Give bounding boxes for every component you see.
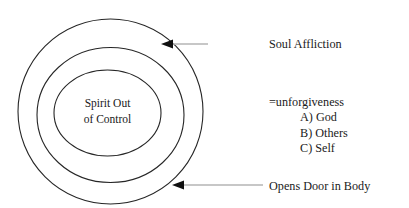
list-item: C) Self — [300, 141, 348, 157]
opens-door-in-body-label: Opens Door in Body — [269, 179, 370, 194]
soul-affliction-label: Soul Affliction — [269, 37, 342, 52]
concentric-circles-diagram: Spirit Out of Control Soul Affliction =u… — [0, 0, 409, 208]
unforgiveness-heading: =unforgiveness — [269, 95, 348, 110]
soul-affliction-arrow-icon — [161, 40, 173, 49]
center-label: Spirit Out of Control — [54, 96, 161, 127]
list-item: A) God — [300, 110, 348, 126]
opens-door-arrow-icon — [172, 181, 184, 190]
list-item: B) Others — [300, 126, 348, 142]
center-label-line-1: Spirit Out — [54, 96, 161, 112]
center-label-line-2: of Control — [54, 112, 161, 128]
unforgiveness-annotation-block: =unforgiveness A) God B) Others C) Self — [269, 95, 348, 157]
unforgiveness-list: A) God B) Others C) Self — [269, 110, 348, 157]
